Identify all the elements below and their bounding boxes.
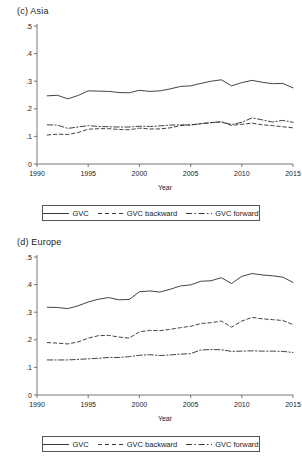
x-axis-label: Year xyxy=(158,415,173,422)
x-tick-label: 1995 xyxy=(80,401,96,408)
x-tick-label: 2015 xyxy=(285,401,301,408)
y-tick-label: .3 xyxy=(26,78,32,85)
series-line-gvc-forward xyxy=(47,349,293,359)
y-tick-label: .1 xyxy=(26,364,32,371)
x-tick-label: 1995 xyxy=(80,170,96,177)
y-tick-label: .3 xyxy=(26,309,32,316)
series-line-gvc-forward xyxy=(47,118,293,128)
panel-europe: (d) Europe 0.1.2.3.4.5199019952000200520… xyxy=(0,231,302,462)
series-line-gvc-backward xyxy=(47,317,293,344)
legend-label-gvc-forward: GVC forward xyxy=(215,440,258,449)
figure-gvc-participation-by-region: (c) Asia 0.1.2.3.4.519901995200020052010… xyxy=(0,0,302,463)
chart-svg-asia: 0.1.2.3.4.5199019952000200520102015Year xyxy=(0,0,302,200)
x-tick-label: 2005 xyxy=(183,401,199,408)
y-tick-label: .1 xyxy=(26,133,32,140)
y-tick-label: .2 xyxy=(26,105,32,112)
legend-label-gvc: GVC xyxy=(72,209,88,218)
legend-entry-gvc-forward: GVC forward xyxy=(186,440,258,449)
y-tick-label: 0 xyxy=(28,161,32,168)
x-tick-label: 2000 xyxy=(132,401,148,408)
series-line-gvc xyxy=(47,80,293,99)
legend-key-solid xyxy=(43,441,69,448)
x-tick-label: 1990 xyxy=(29,401,45,408)
legend-entry-gvc-backward: GVC backward xyxy=(98,440,177,449)
y-tick-label: .2 xyxy=(26,336,32,343)
legend-label-gvc-backward: GVC backward xyxy=(127,440,177,449)
x-tick-label: 2010 xyxy=(234,170,250,177)
plot-area-asia: 0.1.2.3.4.5199019952000200520102015Year xyxy=(0,0,302,231)
legend-label-gvc-forward: GVC forward xyxy=(215,209,258,218)
x-tick-label: 2000 xyxy=(132,170,148,177)
legend-entry-gvc-backward: GVC backward xyxy=(98,209,177,218)
legend-entry-gvc: GVC xyxy=(43,440,88,449)
legend-key-dashed xyxy=(98,210,124,217)
plot-area-europe: 0.1.2.3.4.5199019952000200520102015Year xyxy=(0,231,302,462)
series-line-gvc-backward xyxy=(47,122,293,135)
legend-label-gvc-backward: GVC backward xyxy=(127,209,177,218)
legend-entry-gvc-forward: GVC forward xyxy=(186,209,258,218)
legend-key-dashed xyxy=(98,441,124,448)
x-tick-label: 2015 xyxy=(285,170,301,177)
x-tick-label: 2010 xyxy=(234,401,250,408)
legend-label-gvc: GVC xyxy=(72,440,88,449)
x-axis-label: Year xyxy=(158,184,173,191)
chart-svg-europe: 0.1.2.3.4.5199019952000200520102015Year xyxy=(0,231,302,431)
legend-entry-gvc: GVC xyxy=(43,209,88,218)
x-tick-label: 2005 xyxy=(183,170,199,177)
y-tick-label: .4 xyxy=(26,50,32,57)
y-tick-label: 0 xyxy=(28,392,32,399)
legend-key-dashdot xyxy=(186,441,212,448)
y-tick-label: .5 xyxy=(26,254,32,261)
x-tick-label: 1990 xyxy=(29,170,45,177)
y-tick-label: .5 xyxy=(26,23,32,30)
legend-europe: GVC GVC backward GVC forward xyxy=(42,436,260,452)
panel-asia: (c) Asia 0.1.2.3.4.519901995200020052010… xyxy=(0,0,302,231)
series-line-gvc xyxy=(47,274,293,309)
legend-key-dashdot xyxy=(186,210,212,217)
y-tick-label: .4 xyxy=(26,281,32,288)
legend-key-solid xyxy=(43,210,69,217)
legend-asia: GVC GVC backward GVC forward xyxy=(42,205,260,221)
